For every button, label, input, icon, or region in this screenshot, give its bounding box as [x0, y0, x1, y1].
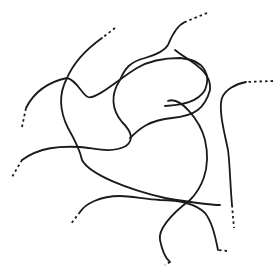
chain-3: [12, 13, 207, 177]
chain-dashed-end: [12, 160, 22, 177]
chain-body: [221, 82, 246, 205]
chain-7: [160, 100, 207, 265]
chain-dashed-end: [246, 81, 273, 82]
chain-1: [61, 28, 220, 205]
chain-body: [26, 58, 207, 108]
chain-dashed-end: [232, 205, 234, 228]
polymer-entanglement-diagram: [0, 0, 277, 274]
chain-dashed-end: [218, 250, 227, 251]
chain-dashed-end: [22, 108, 26, 127]
chain-body: [80, 196, 218, 250]
chain-dashed-end: [70, 212, 80, 225]
chain-4: [221, 81, 273, 228]
chain-dashed-end: [102, 28, 115, 38]
chain-dashed-end: [185, 13, 207, 22]
chain-body: [160, 100, 207, 262]
chain-dashed-end: [165, 262, 170, 265]
